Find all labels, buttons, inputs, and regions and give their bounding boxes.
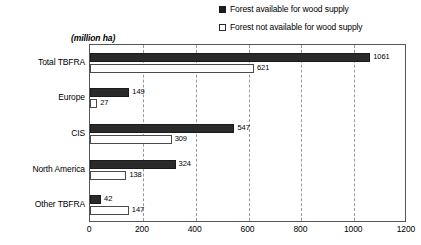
x-tick-label: 400 <box>188 224 202 235</box>
bar-group: 42147 <box>90 187 405 223</box>
value-axis: 020040060080010001200 <box>89 224 406 238</box>
bar-forest-available[interactable] <box>90 124 234 133</box>
legend-item-label: Forest not available for wood supply <box>230 23 362 32</box>
category-label: North America <box>1 164 85 174</box>
category-label: Other TBFRA <box>1 199 85 209</box>
chart-legend: Forest available for wood supply Forest … <box>219 2 419 38</box>
bar-value-label: 309 <box>175 134 187 144</box>
x-tick-label: 600 <box>241 224 255 235</box>
x-tick-label: 1000 <box>344 224 363 235</box>
bar-value-label: 27 <box>100 98 108 108</box>
bar-forest-available[interactable] <box>90 88 129 97</box>
bar-value-label: 147 <box>132 205 144 215</box>
bar-wrap: 324 <box>90 160 407 169</box>
category-axis: Total TBFRAEuropeCISNorth AmericaOther T… <box>0 44 85 222</box>
bar-wrap: 149 <box>90 88 407 97</box>
bar-wrap: 1061 <box>90 53 407 62</box>
category-label: Total TBFRA <box>1 57 85 67</box>
bar-wrap: 547 <box>90 124 407 133</box>
bar-wrap: 27 <box>90 99 407 108</box>
bar-group: 324138 <box>90 152 405 188</box>
bar-forest-available[interactable] <box>90 53 370 62</box>
x-tick-label: 1200 <box>397 224 416 235</box>
category-label: Europe <box>1 92 85 102</box>
bar-forest-not-available[interactable] <box>90 99 97 108</box>
bar-value-label: 547 <box>237 123 249 133</box>
bar-group: 1061621 <box>90 45 405 81</box>
bar-wrap: 621 <box>90 64 407 73</box>
bar-forest-not-available[interactable] <box>90 135 172 144</box>
bar-forest-not-available[interactable] <box>90 171 126 180</box>
bar-forest-available[interactable] <box>90 160 176 169</box>
bar-forest-not-available[interactable] <box>90 64 254 73</box>
bar-value-label: 324 <box>179 159 191 169</box>
bar-wrap: 309 <box>90 135 407 144</box>
filled-square-icon <box>219 6 226 13</box>
x-tick-label: 0 <box>87 224 92 235</box>
bar-value-label: 149 <box>132 87 144 97</box>
legend-item-label: Forest available for wood supply <box>230 5 349 14</box>
bar-value-label: 1061 <box>373 52 389 62</box>
bar-forest-not-available[interactable] <box>90 206 129 215</box>
bar-wrap: 147 <box>90 206 407 215</box>
axis-unit-label: (million ha) <box>71 33 115 43</box>
bar-group: 14927 <box>90 81 405 117</box>
chart-figure: Forest available for wood supply Forest … <box>0 0 421 245</box>
hollow-square-icon <box>219 24 226 31</box>
bar-value-label: 42 <box>104 194 112 204</box>
category-label: CIS <box>1 128 85 138</box>
bar-value-label: 138 <box>129 170 141 180</box>
plot-area: 10616211492754730932413842147 <box>89 44 406 222</box>
bar-wrap: 42 <box>90 195 407 204</box>
x-tick-label: 200 <box>135 224 149 235</box>
bar-wrap: 138 <box>90 171 407 180</box>
legend-item-forest-available: Forest available for wood supply <box>219 2 419 17</box>
x-tick-label: 800 <box>293 224 307 235</box>
bar-forest-available[interactable] <box>90 195 101 204</box>
bar-value-label: 621 <box>257 63 269 73</box>
bar-group: 547309 <box>90 116 405 152</box>
legend-item-forest-not-available: Forest not available for wood supply <box>219 20 419 35</box>
